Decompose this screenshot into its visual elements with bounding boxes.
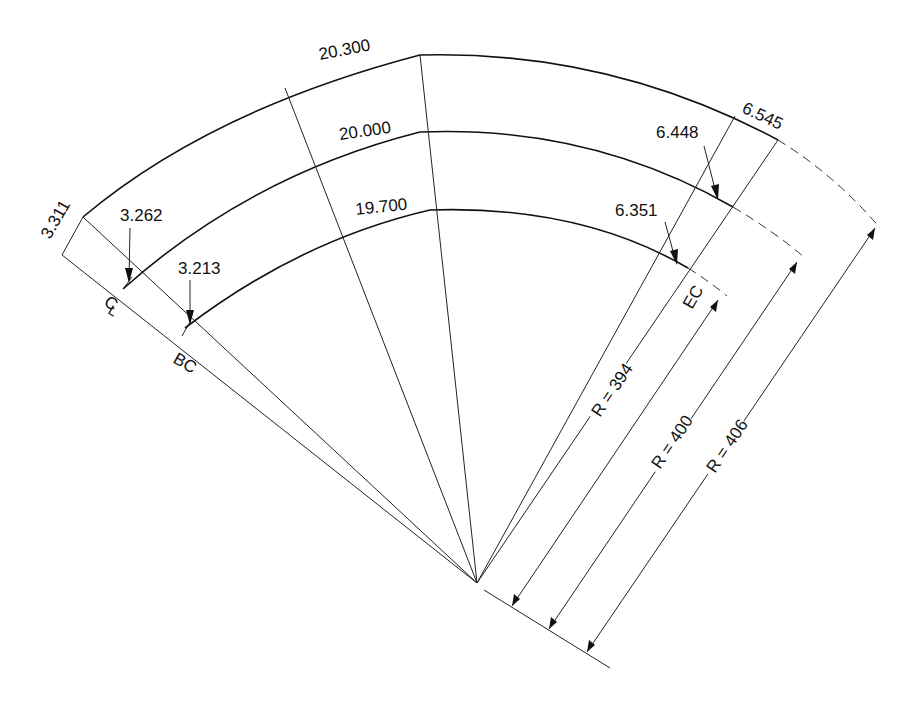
ec-label: EC xyxy=(679,282,707,312)
mid-length-label: 20.000 xyxy=(338,118,392,144)
dimension-baseline xyxy=(484,590,610,668)
left-outer-tick xyxy=(62,217,83,255)
inner-length-label: 19.700 xyxy=(354,195,408,219)
outer-start-label: 3.311 xyxy=(37,197,74,242)
inner-start-label: 3.213 xyxy=(178,259,221,278)
outer-arc-dashed-extension xyxy=(778,140,880,228)
curve-diagram: 20.300 20.000 19.700 6.545 6.448 6.351 3… xyxy=(0,0,909,703)
outer-length-label: 20.300 xyxy=(317,35,372,64)
inner-arc xyxy=(185,210,688,328)
bc-tick xyxy=(182,322,190,336)
bc-label: BC xyxy=(170,349,200,377)
mid-arc-dashed-extension xyxy=(733,207,805,258)
r400-label: R = 400 xyxy=(648,412,697,472)
mid-end-label: 6.448 xyxy=(656,123,699,142)
outer-end-label: 6.545 xyxy=(739,98,786,133)
r406-label: R = 406 xyxy=(703,416,752,476)
r394-dimension-line xyxy=(512,300,718,606)
radial-line-2 xyxy=(420,55,477,583)
mid-start-label: 3.262 xyxy=(120,206,163,225)
inner-end-label: 6.351 xyxy=(615,201,658,220)
left-inner-boundary xyxy=(83,217,477,583)
radial-line-1 xyxy=(285,88,477,583)
left-outer-boundary xyxy=(62,255,477,583)
right-radial-1 xyxy=(477,116,735,583)
arrowhead-icon xyxy=(670,249,678,265)
